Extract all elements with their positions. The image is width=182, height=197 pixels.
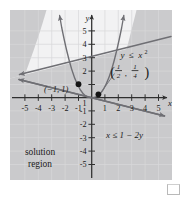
solution-region-line-1: solution [25, 147, 56, 157]
ytick-2: 2 [82, 67, 86, 76]
xtick--4: -4 [35, 104, 42, 113]
y-axis-label: y [85, 13, 90, 23]
line-inequality-label: x ≤ 1 − 2y [105, 130, 143, 140]
svg-text:y ≤ x: y ≤ x 2 [120, 49, 148, 59]
page-corner-mark [167, 184, 180, 195]
parabola-ineq-rhs: x [137, 50, 142, 60]
point-half-quarter [96, 91, 102, 97]
parabola-inequality-label: y ≤ x 2 [120, 49, 148, 59]
ytick-5: 5 [82, 27, 86, 36]
xtick-5: 5 [156, 104, 160, 113]
ytick--3: -3 [80, 134, 87, 143]
solution-region-line-2: region [28, 159, 52, 169]
fraction-separator-comma: , [125, 68, 127, 78]
xtick--5: -5 [21, 104, 28, 113]
xtick-1: 1 [103, 104, 107, 113]
fraction-paren-open: ( [110, 65, 115, 81]
point-label-neg1-1: (−1, 1) [44, 84, 69, 94]
ytick--2: -2 [80, 120, 87, 129]
xtick--3: -3 [48, 104, 55, 113]
parabola-ineq-exponent: 2 [145, 49, 148, 55]
fraction-1-numerator: 1 [117, 63, 121, 71]
xtick-3: 3 [130, 104, 134, 113]
fraction-paren-close: ) [145, 65, 150, 81]
ytick--1: -1 [80, 107, 87, 116]
xtick--2: -2 [62, 104, 69, 113]
xtick-4: 4 [143, 104, 147, 113]
parabola-ineq-rel: ≤ [129, 50, 134, 60]
ytick-4: 4 [82, 40, 86, 49]
point-neg1-1 [76, 81, 82, 87]
xtick-2: 2 [116, 104, 120, 113]
x-axis-label: x [167, 98, 172, 108]
ytick-3: 3 [82, 54, 86, 63]
fraction-2-denominator: 4 [133, 72, 137, 80]
ytick--4: -4 [80, 147, 87, 156]
parabola-ineq-lhs: y [120, 50, 125, 60]
fraction-2-numerator: 1 [133, 63, 137, 71]
ytick--5: -5 [80, 160, 87, 169]
graph-figure: -5 -4 -3 -2 -1 1 2 3 4 5 5 4 3 2 1 -1 -2… [0, 0, 182, 197]
coordinate-plane-svg: -5 -4 -3 -2 -1 1 2 3 4 5 5 4 3 2 1 -1 -2… [0, 0, 182, 197]
fraction-1-denominator: 2 [117, 72, 121, 80]
